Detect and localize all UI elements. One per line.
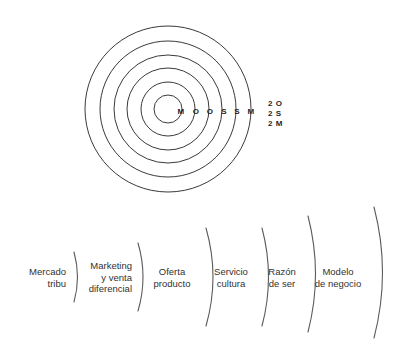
ring-2 — [141, 82, 195, 136]
bracket-modelo-de-negocio — [374, 207, 383, 338]
ring-letter-6: M — [247, 107, 254, 116]
ring-5 — [100, 41, 236, 177]
legend-block: 2 O2 S2 M — [268, 99, 283, 129]
segment-label-modelo-de-negocio: Modelo de negocio — [306, 266, 370, 289]
ring-letter-2: O — [193, 107, 200, 116]
diagram-vector-layer — [0, 0, 395, 356]
legend-line-3: 2 M — [268, 119, 283, 129]
segment-label-servicio-cultura: Servicio cultura — [205, 266, 257, 289]
ring-letter-1: M — [177, 107, 184, 116]
diagram-canvas: MOOSSM 2 O2 S2 M Mercado tribuMarketing … — [0, 0, 395, 356]
segment-label-mercado-tribu: Mercado tribu — [8, 266, 66, 289]
segment-label-oferta-producto: Oferta producto — [143, 266, 201, 289]
ring-letter-4: S — [221, 107, 227, 116]
segment-label-marketing-venta-diferencial: Marketing y venta diferencial — [74, 260, 132, 295]
segment-label-razon-de-ser: Razón de ser — [259, 266, 305, 289]
ring-letter-3: O — [207, 107, 214, 116]
ring-letter-5: S — [234, 107, 240, 116]
legend-line-1: 2 O — [268, 99, 283, 109]
legend-line-2: 2 S — [268, 109, 283, 119]
